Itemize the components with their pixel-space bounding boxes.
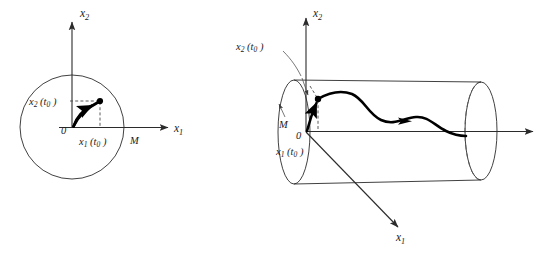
- cylinder-top-generator: [294, 80, 481, 82]
- right-origin-label: 0: [296, 130, 302, 141]
- left-axis-label-x1: x1: [173, 122, 183, 137]
- right-panel-group: x2 x1 x2 (t0 ) x1 (t0 ) 0 M: [235, 7, 533, 246]
- x2-t0-leader-line: [283, 51, 301, 76]
- left-panel-group: x2 x1 x2 (t0 ) x1 (t0 ) 0 M: [20, 7, 183, 179]
- cylinder-near-ellipse: [278, 80, 310, 184]
- right-tube-trajectory: [318, 92, 466, 136]
- right-radius-label-m: M: [278, 119, 289, 130]
- diagram-svg: x2 x1 x2 (t0 ) x1 (t0 ) 0 M: [0, 0, 539, 253]
- left-state-point-marker: [97, 98, 103, 104]
- right-label-x1-t0: x1 (t0 ): [275, 146, 304, 159]
- left-label-x1-t0: x1 (t0 ): [78, 136, 107, 149]
- left-state-trajectory-tail: [74, 102, 100, 127]
- right-state-point-marker: [315, 96, 321, 102]
- figure-canvas: x2 x1 x2 (t0 ) x1 (t0 ) 0 M: [0, 0, 539, 253]
- left-label-x2-t0: x2 (t0 ): [28, 96, 57, 109]
- right-axis-label-x1: x1: [395, 231, 405, 246]
- right-radius-pointer-arrow: [279, 104, 285, 117]
- right-label-x2-t0: x2 (t0 ): [235, 41, 264, 54]
- left-radius-label-m: M: [129, 135, 140, 146]
- left-axis-label-x2: x2: [79, 7, 89, 22]
- cylinder-bottom-generator: [294, 180, 481, 184]
- right-axis-label-x2: x2: [312, 7, 322, 22]
- left-origin-label: 0: [61, 125, 67, 136]
- right-depth-axis: [306, 132, 398, 227]
